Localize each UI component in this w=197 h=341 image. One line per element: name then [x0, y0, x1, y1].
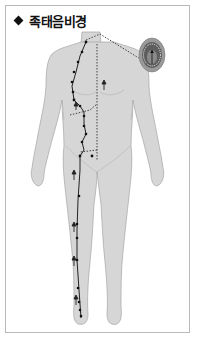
- body-meridian-figure: [0, 0, 197, 341]
- body-silhouette: [31, 32, 164, 324]
- mouth-inset-illustration: [139, 38, 165, 72]
